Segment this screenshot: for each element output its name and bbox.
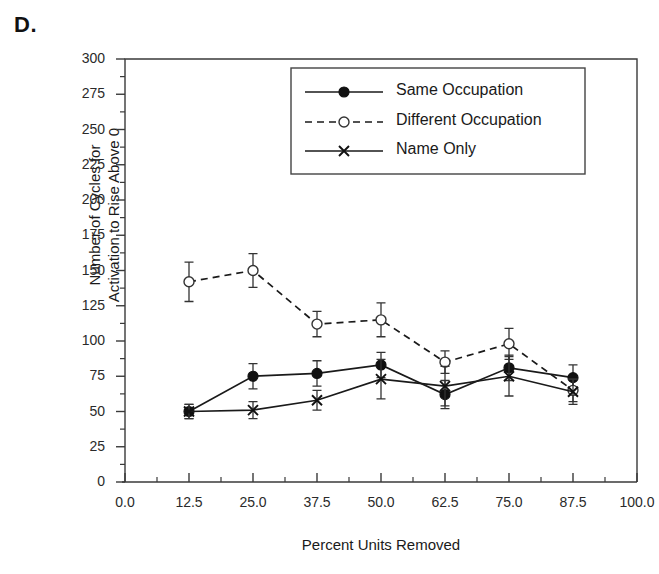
x-axis-tick-label: 100.0 bbox=[609, 494, 659, 510]
y-axis-tick-label: 125 bbox=[57, 297, 105, 313]
data-point-different-occupation bbox=[504, 339, 514, 349]
data-point-different-occupation bbox=[184, 277, 194, 287]
data-point-legend-different-occupation bbox=[339, 117, 349, 127]
legend-entry-label: Same Occupation bbox=[396, 81, 523, 99]
data-point-same-occupation bbox=[312, 368, 322, 378]
x-axis-tick-label: 62.5 bbox=[417, 494, 473, 510]
x-axis-tick-label: 37.5 bbox=[289, 494, 345, 510]
data-point-different-occupation bbox=[312, 319, 322, 329]
data-point-legend-same-occupation bbox=[339, 87, 349, 97]
y-axis-tick-label: 175 bbox=[57, 226, 105, 242]
x-axis-tick-label: 12.5 bbox=[161, 494, 217, 510]
y-axis-tick-label: 25 bbox=[57, 438, 105, 454]
x-axis-tick-label: 75.0 bbox=[481, 494, 537, 510]
legend-entry-label: Name Only bbox=[396, 140, 476, 158]
data-point-same-occupation bbox=[248, 371, 258, 381]
x-axis-tick-label: 0.0 bbox=[97, 494, 153, 510]
data-point-different-occupation bbox=[248, 266, 258, 276]
y-axis-tick-label: 200 bbox=[57, 191, 105, 207]
data-point-different-occupation bbox=[376, 315, 386, 325]
x-axis-tick-label: 50.0 bbox=[353, 494, 409, 510]
legend-entry-label: Different Occupation bbox=[396, 111, 542, 129]
y-axis-tick-label: 0 bbox=[57, 473, 105, 489]
y-axis-tick-label: 275 bbox=[57, 85, 105, 101]
y-axis-tick-label: 75 bbox=[57, 367, 105, 383]
y-axis-tick-label: 300 bbox=[57, 50, 105, 66]
y-axis-tick-label: 250 bbox=[57, 121, 105, 137]
x-axis-tick-label: 25.0 bbox=[225, 494, 281, 510]
x-axis-tick-label: 87.5 bbox=[545, 494, 601, 510]
data-point-different-occupation bbox=[440, 357, 450, 367]
y-axis-tick-label: 100 bbox=[57, 332, 105, 348]
y-axis-tick-label: 50 bbox=[57, 403, 105, 419]
y-axis-tick-label: 225 bbox=[57, 156, 105, 172]
y-axis-tick-label: 150 bbox=[57, 262, 105, 278]
